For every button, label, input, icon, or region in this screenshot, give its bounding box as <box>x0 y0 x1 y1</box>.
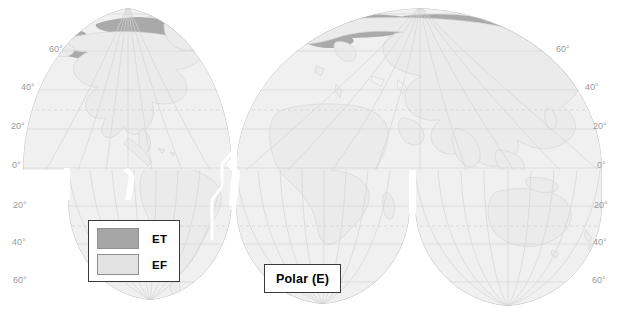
map-title: Polar (E) <box>276 272 329 286</box>
lat-label-right-40n: 40° <box>585 82 599 92</box>
legend-label-ef: EF <box>152 259 167 271</box>
map-legend: ET EF <box>88 220 180 282</box>
ef-zone-ne <box>244 20 276 37</box>
lat-label-right-60s: 60° <box>592 275 606 285</box>
lat-label-left-40s: 40° <box>12 237 26 247</box>
legend-swatch-ef <box>97 254 139 275</box>
lat-label-left-60s: 60° <box>13 275 27 285</box>
legend-item-et: ET <box>97 228 167 249</box>
legend-item-ef: EF <box>97 254 167 275</box>
lat-label-right-0: 0° <box>597 160 606 170</box>
legend-label-et: ET <box>152 233 167 245</box>
lat-label-right-40s: 40° <box>593 237 607 247</box>
lat-label-left-60n: 60° <box>49 44 63 54</box>
lat-label-left-40n: 40° <box>21 82 35 92</box>
lat-label-right-20n: 20° <box>593 121 607 131</box>
map-figure: 60° 40° 20° 0° 20° 40° 60° 60° 40° 20° 0… <box>0 0 620 336</box>
lat-label-left-20s: 20° <box>13 200 27 210</box>
lat-label-right-60n: 60° <box>556 44 570 54</box>
legend-swatch-et <box>97 228 139 249</box>
lat-label-right-20s: 20° <box>594 200 608 210</box>
lat-label-left-20n: 20° <box>11 121 25 131</box>
map-title-box: Polar (E) <box>264 264 341 293</box>
lat-label-left-0: 0° <box>12 160 21 170</box>
